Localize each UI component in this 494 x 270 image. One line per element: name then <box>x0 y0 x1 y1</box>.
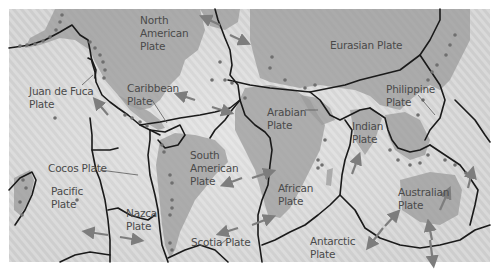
label-cocos-plate: Cocos Plate <box>48 162 107 174</box>
label-eurasian-plate: Eurasian Plate <box>330 39 402 51</box>
label-scotia-plate: Scotia Plate <box>191 236 251 248</box>
tectonic-plates-map: North American Plate Eurasian Plate Juan… <box>0 0 494 270</box>
